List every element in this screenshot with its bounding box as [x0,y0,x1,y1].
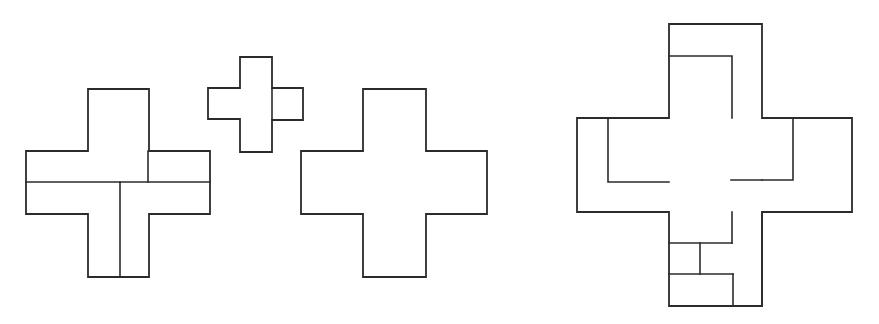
figure-plain-cross [301,89,487,277]
large-cross-outline [26,89,210,277]
plain-cross-outline [301,89,487,277]
left-arm-notch [608,118,669,182]
small-cross-outline [208,57,303,152]
figure-overlapping-cross-pair-left [26,89,210,277]
central-cross-outline [577,24,852,306]
top-arm-notch [669,56,732,118]
figure-small-cross [208,57,303,152]
figure-interlocking-cross-assembly [577,24,852,306]
right-arm-notch [762,118,793,180]
diagram-canvas [0,0,879,324]
